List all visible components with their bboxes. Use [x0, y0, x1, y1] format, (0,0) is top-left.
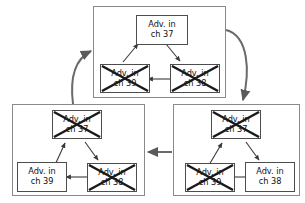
- node-label-line2: ch 39: [31, 177, 54, 187]
- node-bottom-right-ch39[interactable]: Adv. in ch 39: [185, 163, 235, 192]
- node-top-ch39[interactable]: Adv. in ch 39: [100, 64, 150, 93]
- node-label-line2: ch 38: [101, 178, 124, 188]
- node-label-line2: ch 39: [199, 178, 222, 188]
- node-top-ch37[interactable]: Adv. in ch 37: [136, 15, 188, 45]
- node-top-ch38[interactable]: Adv. in ch 38: [170, 64, 220, 93]
- node-bottom-left-ch39[interactable]: Adv. in ch 39: [17, 162, 67, 192]
- node-bottom-right-ch38[interactable]: Adv. in ch 38: [245, 162, 295, 192]
- node-label-line2: ch 37: [225, 125, 248, 135]
- node-bottom-left-ch38[interactable]: Adv. in ch 38: [87, 163, 137, 192]
- node-bottom-right-ch37[interactable]: Adv. in ch 37: [211, 110, 261, 139]
- node-label-line2: ch 39: [114, 79, 137, 89]
- node-bottom-left-ch37[interactable]: Adv. in ch 37: [52, 110, 102, 139]
- node-label-line2: ch 38: [184, 79, 207, 89]
- node-label-line2: ch 37: [66, 125, 89, 135]
- node-label-line2: ch 38: [259, 177, 282, 187]
- diagram-canvas: Adv. in ch 37 Adv. in ch 39 Adv. in ch 3…: [0, 0, 305, 203]
- arrow-top-to-bottom-right: [226, 30, 247, 100]
- arrow-bottom-left-to-top: [72, 51, 91, 104]
- node-label-line2: ch 37: [151, 30, 174, 40]
